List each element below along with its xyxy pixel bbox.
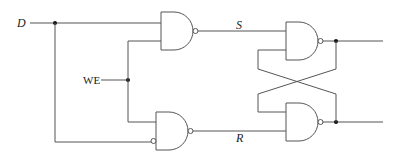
label-we: WE <box>83 74 100 86</box>
inverter-bubble-top-right <box>318 39 323 44</box>
nand-gate-top-left <box>161 12 193 50</box>
wire-we-branch <box>128 41 161 122</box>
label-r: R <box>235 131 244 145</box>
inverter-bubble-bottom-right <box>318 120 323 125</box>
d-latch-diagram: D WE S R <box>0 0 403 158</box>
inverter-bubble-bottom-left <box>188 129 193 134</box>
nand-gate-bottom-right <box>286 103 318 141</box>
label-d: D <box>16 16 26 30</box>
nand-gate-top-right <box>286 22 318 60</box>
nand-gate-bottom-left <box>156 112 188 150</box>
inverter-bubble-d-input <box>151 139 156 144</box>
inverter-bubble-top-left <box>193 29 198 34</box>
label-s: S <box>236 18 242 32</box>
